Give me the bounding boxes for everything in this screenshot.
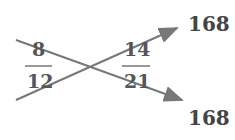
left-numerator: 8 (32, 40, 45, 59)
left-denominator: 12 (27, 72, 53, 91)
product-top: 168 (188, 14, 230, 34)
right-denominator: 21 (124, 72, 150, 91)
right-numerator: 14 (124, 40, 150, 59)
product-bottom: 168 (188, 108, 230, 128)
